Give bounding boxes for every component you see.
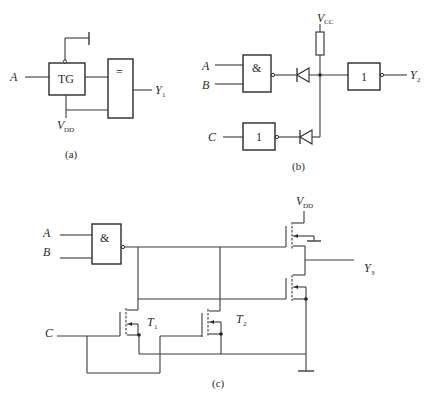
input-a-label-c: A [42, 226, 51, 240]
caption-c: (c) [212, 377, 225, 390]
input-b-label-c: B [43, 245, 51, 259]
nand-label-b: & [252, 61, 262, 75]
svg-text:DD: DD [64, 126, 74, 134]
transistor-t1 [120, 299, 141, 354]
transistor-t2 [202, 300, 223, 354]
resistor [316, 32, 324, 55]
circuit-figure: A TG V DD = Y 1 (a) A B & [0, 0, 426, 400]
input-a-label: A [9, 70, 18, 84]
panel-b: A B & V CC 1 Y 2 C 1 [201, 11, 421, 173]
inverter-c-label: 1 [256, 130, 262, 144]
panel-c: A B & T 1 C [42, 194, 375, 390]
svg-text:DD: DD [303, 202, 313, 210]
input-b-label-b: B [202, 78, 210, 92]
caption-a: (a) [65, 148, 78, 161]
inverter-label: 1 [361, 70, 367, 84]
svg-text:1: 1 [162, 91, 166, 99]
svg-text:2: 2 [417, 76, 421, 84]
tg-label: TG [58, 72, 74, 86]
nmos-transistor [286, 275, 308, 301]
svg-text:1: 1 [154, 323, 158, 331]
panel-a: A TG V DD = Y 1 (a) [9, 32, 166, 161]
svg-text:2: 2 [243, 320, 247, 328]
pmos-transistor [286, 211, 321, 249]
nand-label-c: & [100, 231, 110, 245]
input-c-label-b: C [208, 130, 217, 144]
input-a-label-b: A [201, 59, 210, 73]
svg-text:3: 3 [371, 269, 375, 277]
diode-icon [300, 130, 312, 144]
caption-b: (b) [292, 160, 305, 173]
input-c-label-c: C [45, 326, 54, 340]
svg-text:CC: CC [324, 18, 334, 26]
diode-icon [297, 68, 309, 82]
xnor-label: = [116, 65, 123, 79]
